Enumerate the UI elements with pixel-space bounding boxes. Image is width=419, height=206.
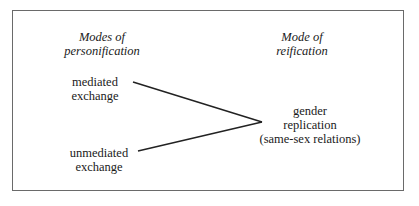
heading-line: Mode of (262, 30, 342, 44)
heading-line: reification (262, 44, 342, 58)
edge-unmediated-to-gender (138, 122, 262, 151)
node-line: replication (250, 118, 370, 132)
node-line: mediated (62, 75, 128, 89)
heading-mode-of-reification: Mode of reification (262, 30, 342, 58)
node-unmediated-exchange: unmediated exchange (62, 146, 136, 174)
node-line: (same-sex relations) (250, 132, 370, 146)
edge-mediated-to-gender (133, 82, 262, 122)
heading-modes-of-personification: Modes of personification (52, 30, 152, 58)
heading-line: personification (52, 44, 152, 58)
node-mediated-exchange: mediated exchange (62, 75, 128, 103)
node-gender-replication: gender replication (same-sex relations) (250, 104, 370, 146)
node-line: exchange (62, 89, 128, 103)
node-line: unmediated (62, 146, 136, 160)
node-line: exchange (62, 160, 136, 174)
heading-line: Modes of (52, 30, 152, 44)
node-line: gender (250, 104, 370, 118)
